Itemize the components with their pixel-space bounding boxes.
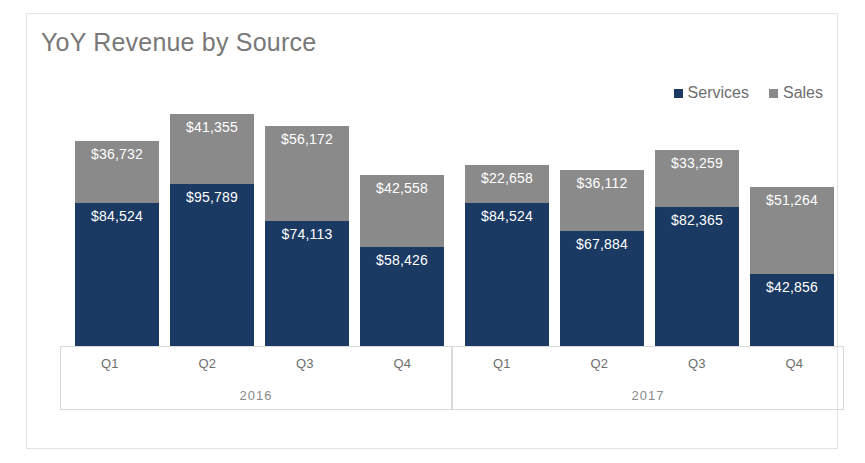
chart-legend: Services Sales — [674, 84, 823, 102]
bar-label-sales: $41,355 — [170, 119, 254, 135]
legend-item-sales[interactable]: Sales — [769, 84, 823, 102]
axis-tick-q4: Q4 — [746, 347, 844, 379]
bar-group[interactable]: $42,558$58,426 — [360, 175, 444, 346]
axis-year-label: 2017 — [453, 379, 843, 411]
bar-group[interactable]: $41,355$95,789 — [170, 114, 254, 346]
axis-tick-q3: Q3 — [256, 347, 354, 379]
axis-tick-q3: Q3 — [648, 347, 746, 379]
legend-label-sales: Sales — [783, 84, 823, 102]
bar-label-services: $84,524 — [75, 208, 159, 224]
bar-segment-services[interactable]: $82,365 — [655, 207, 739, 346]
axis-tick-q4: Q4 — [354, 347, 452, 379]
bar-segment-sales[interactable]: $41,355 — [170, 114, 254, 184]
axis-tick-q2: Q2 — [159, 347, 257, 379]
bar-segment-services[interactable]: $84,524 — [75, 203, 159, 346]
category-axis: Q1Q2Q3Q42016Q1Q2Q3Q42017 — [34, 346, 832, 410]
bar-label-services: $95,789 — [170, 189, 254, 205]
axis-year-group: Q1Q2Q3Q42016 — [60, 346, 452, 410]
bar-group[interactable]: $51,264$42,856 — [750, 187, 834, 346]
bar-segment-sales[interactable]: $56,172 — [265, 126, 349, 221]
plot-area: $36,732$84,524$41,355$95,789$56,172$74,1… — [34, 114, 832, 346]
bar-segment-services[interactable]: $42,856 — [750, 274, 834, 346]
legend-swatch-services — [674, 89, 683, 98]
bar-label-sales: $36,112 — [560, 175, 644, 191]
bar-label-sales: $33,259 — [655, 155, 739, 171]
bar-label-sales: $56,172 — [265, 131, 349, 147]
bar-group[interactable]: $36,732$84,524 — [75, 141, 159, 346]
bar-label-sales: $36,732 — [75, 146, 159, 162]
chart-card: YoY Revenue by Source Services Sales $36… — [26, 13, 838, 449]
axis-tick-q1: Q1 — [453, 347, 551, 379]
bar-segment-sales[interactable]: $22,658 — [465, 165, 549, 203]
axis-year-group: Q1Q2Q3Q42017 — [452, 346, 844, 410]
bar-group[interactable]: $56,172$74,113 — [265, 126, 349, 346]
axis-tick-q2: Q2 — [551, 347, 649, 379]
bar-label-sales: $51,264 — [750, 192, 834, 208]
bar-segment-sales[interactable]: $51,264 — [750, 187, 834, 274]
bar-group[interactable]: $33,259$82,365 — [655, 150, 739, 346]
bar-label-services: $42,856 — [750, 279, 834, 295]
legend-swatch-sales — [769, 89, 778, 98]
bar-label-services: $67,884 — [560, 236, 644, 252]
legend-item-services[interactable]: Services — [674, 84, 749, 102]
axis-quarter-row: Q1Q2Q3Q4 — [453, 347, 843, 379]
bar-segment-sales[interactable]: $42,558 — [360, 175, 444, 247]
bar-segment-sales[interactable]: $36,112 — [560, 170, 644, 231]
bar-segment-services[interactable]: $84,524 — [465, 203, 549, 346]
legend-label-services: Services — [688, 84, 749, 102]
bar-segment-services[interactable]: $67,884 — [560, 231, 644, 346]
bar-segment-services[interactable]: $95,789 — [170, 184, 254, 346]
page-title: YoY Revenue by Source — [41, 28, 316, 57]
bar-label-services: $58,426 — [360, 252, 444, 268]
bar-label-services: $74,113 — [265, 226, 349, 242]
bar-segment-sales[interactable]: $33,259 — [655, 150, 739, 206]
axis-year-label: 2016 — [61, 379, 451, 411]
bar-label-services: $84,524 — [465, 208, 549, 224]
axis-quarter-row: Q1Q2Q3Q4 — [61, 347, 451, 379]
bar-segment-sales[interactable]: $36,732 — [75, 141, 159, 203]
bar-group[interactable]: $36,112$67,884 — [560, 170, 644, 346]
bar-label-sales: $22,658 — [465, 170, 549, 186]
bar-label-sales: $42,558 — [360, 180, 444, 196]
bar-label-services: $82,365 — [655, 212, 739, 228]
axis-tick-q1: Q1 — [61, 347, 159, 379]
bar-group[interactable]: $22,658$84,524 — [465, 165, 549, 346]
bar-segment-services[interactable]: $74,113 — [265, 221, 349, 346]
bar-segment-services[interactable]: $58,426 — [360, 247, 444, 346]
